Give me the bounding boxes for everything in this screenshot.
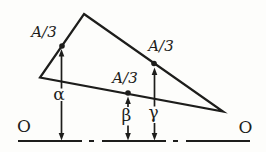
label-a3-left: A/3	[29, 23, 56, 41]
label-a3-middle: A/3	[110, 69, 137, 87]
beta-arrowhead-down-icon	[125, 133, 131, 141]
diagram-page: A/3 A/3 A/3 α β γ O O	[0, 0, 266, 152]
label-datum-right: O	[239, 117, 253, 137]
midpoint-dot-middle	[125, 90, 131, 96]
midpoint-dot-right	[151, 61, 157, 67]
beta-arrowhead-up-icon	[125, 97, 131, 105]
triangle-outline	[40, 14, 223, 112]
midpoint-dot-left	[59, 43, 65, 49]
label-gamma: γ	[148, 102, 158, 122]
gamma-arrowhead-up-icon	[152, 68, 158, 76]
label-alpha: α	[53, 84, 65, 104]
triangle-midpoint-height-diagram: A/3 A/3 A/3 α β γ O O	[0, 0, 266, 152]
label-beta: β	[122, 105, 132, 125]
alpha-arrowhead-down-icon	[59, 133, 65, 141]
label-datum-left: O	[17, 116, 31, 136]
gamma-arrowhead-down-icon	[152, 133, 158, 141]
label-a3-right: A/3	[146, 37, 173, 55]
